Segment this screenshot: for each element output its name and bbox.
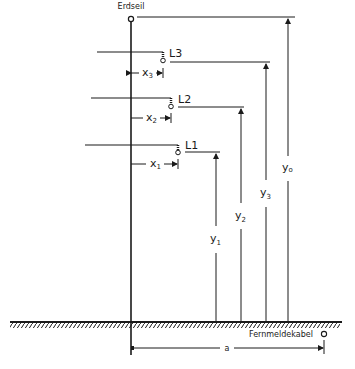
- dimension-yo: yo: [282, 19, 293, 322]
- telecom-cable: Fernmeldekabel: [249, 330, 327, 339]
- svg-text:yo: yo: [282, 161, 293, 174]
- dimension-y3: y3: [260, 64, 271, 322]
- telecom-cable-label: Fernmeldekabel: [249, 330, 313, 339]
- dimension-a: a: [131, 340, 324, 354]
- dimension-x2: x2: [131, 111, 171, 125]
- conductor-l3-circle-icon: [161, 58, 166, 63]
- l1-label: L1: [185, 139, 198, 152]
- svg-text:y1: y1: [210, 232, 221, 247]
- l3-label: L3: [169, 47, 182, 60]
- conductor-l3: L3: [97, 47, 270, 63]
- earth-wire-circle-icon: [128, 16, 133, 21]
- dimension-x3: x3: [131, 66, 163, 80]
- dimension-y2: y2: [235, 109, 246, 322]
- svg-text:x2: x2: [146, 111, 157, 125]
- svg-text:y3: y3: [260, 186, 271, 201]
- dimension-x1: x1: [131, 157, 178, 171]
- a-label: a: [225, 344, 230, 353]
- svg-text:x3: x3: [142, 66, 153, 80]
- ground: [10, 322, 342, 328]
- telecom-cable-circle-icon: [321, 331, 326, 336]
- conductor-l1-circle-icon: [176, 150, 181, 155]
- conductor-l2: L2: [91, 93, 244, 109]
- dimension-y1: y1: [210, 154, 221, 322]
- l2-label: L2: [178, 93, 191, 106]
- conductor-l2-circle-icon: [169, 104, 174, 109]
- earth-wire-label: Erdseil: [118, 2, 145, 11]
- svg-text:y2: y2: [235, 209, 246, 224]
- conductor-l1: L1: [85, 139, 220, 155]
- earth-wire: Erdseil: [118, 2, 295, 22]
- svg-text:x1: x1: [150, 157, 161, 171]
- overhead-line-geometry-diagram: Erdseil L3 L2 L1 x3 x2: [0, 0, 355, 369]
